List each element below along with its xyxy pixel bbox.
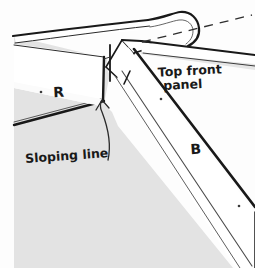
dot-rail: [40, 91, 43, 94]
label-top-front-panel-line2: panel: [163, 76, 203, 93]
label-batten-B: B: [190, 141, 202, 158]
diagram-canvas: R B Top front panel Sloping line: [0, 0, 255, 268]
dot-top-panel: [160, 98, 163, 101]
corner-joint-drawing: R B Top front panel Sloping line: [0, 0, 255, 268]
label-rail-R: R: [53, 84, 65, 101]
dot-batten: [238, 205, 241, 208]
rail-panel-right-line: [103, 57, 104, 101]
